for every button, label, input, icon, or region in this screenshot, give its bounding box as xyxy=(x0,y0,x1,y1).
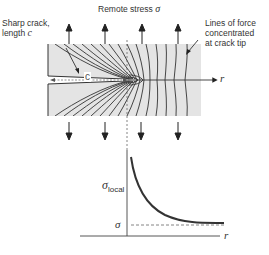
remote-stress-label: Remote stress σ xyxy=(98,4,160,14)
lines-of-force-label: Lines of force concentrated at crack tip xyxy=(205,18,256,48)
sigma-local-label: σlocal xyxy=(102,178,124,193)
r-axis-top-label: r xyxy=(220,72,224,84)
remote-stress-arrows-bottom xyxy=(66,122,181,140)
local-stress-curve xyxy=(131,157,224,223)
remote-stress-arrows-top xyxy=(66,24,181,44)
r-axis-bottom-label: r xyxy=(224,229,228,241)
sigma-remote-label: σ xyxy=(115,218,120,230)
crack-length-c-label: c xyxy=(84,72,91,82)
crack-label: Sharp crack, length c xyxy=(2,18,50,38)
crack-stress-diagram: Sharp crack, length c Remote stress σ Li… xyxy=(0,0,269,255)
